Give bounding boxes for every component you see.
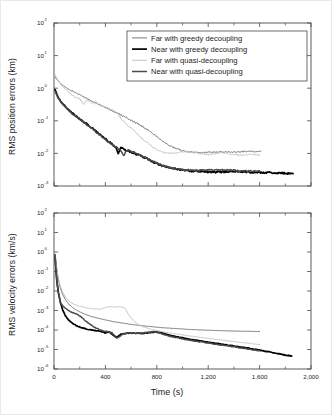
svg-text:10: 10 xyxy=(37,52,44,59)
position-errors-panel: RMS position errors (km) 10-310-210-1100… xyxy=(1,1,332,206)
axes-frame xyxy=(54,213,311,369)
svg-text:10: 10 xyxy=(37,268,44,275)
time-x-axis-label: Time (s) xyxy=(1,387,332,397)
series-line xyxy=(55,254,260,331)
svg-text:10: 10 xyxy=(37,248,44,255)
svg-text:10: 10 xyxy=(37,182,44,189)
y-tick-label: 101 xyxy=(37,50,47,59)
series-line xyxy=(55,255,292,356)
position-errors-plot: 10-310-210-1100101102Far with greedy dec… xyxy=(1,1,332,206)
y-tick-label: 10-6 xyxy=(37,363,49,372)
chart-legend: Far with greedy decouplingNear with gree… xyxy=(127,31,307,81)
y-tick-label: 10-2 xyxy=(37,148,49,157)
x-tick-label: 400 xyxy=(100,373,111,380)
series-line xyxy=(55,77,261,153)
y-tick-label: 10-4 xyxy=(37,324,49,333)
y-tick-label: 10-1 xyxy=(37,266,49,275)
legend-label: Near with greedy decoupling xyxy=(151,45,247,54)
svg-text:-1: -1 xyxy=(45,115,49,120)
x-tick-label: 800 xyxy=(152,373,163,380)
velocity-errors-plot: 10-610-510-410-310-210-11001011020400800… xyxy=(1,201,332,387)
svg-text:10: 10 xyxy=(37,117,44,124)
y-tick-label: 102 xyxy=(37,17,47,26)
svg-text:10: 10 xyxy=(37,346,44,353)
svg-text:-3: -3 xyxy=(45,305,49,310)
svg-text:1: 1 xyxy=(45,50,48,55)
series-line xyxy=(55,75,260,156)
svg-text:10: 10 xyxy=(37,209,44,216)
svg-text:-3: -3 xyxy=(45,180,49,185)
svg-text:-4: -4 xyxy=(45,324,49,329)
svg-text:-2: -2 xyxy=(45,148,49,153)
position-errors-y-axis-label: RMS position errors (km) xyxy=(7,27,17,187)
legend-label: Far with quasi-decoupling xyxy=(151,56,238,65)
figure-container: RMS position errors (km) 10-310-210-1100… xyxy=(0,0,332,415)
svg-text:10: 10 xyxy=(37,19,44,26)
series-group xyxy=(55,75,293,175)
svg-text:-5: -5 xyxy=(45,344,49,349)
svg-text:10: 10 xyxy=(37,229,44,236)
legend-label: Near with quasi-decoupling xyxy=(151,67,243,76)
series-line xyxy=(55,91,260,171)
svg-text:0: 0 xyxy=(45,246,48,251)
svg-text:1: 1 xyxy=(45,227,48,232)
series-group xyxy=(55,254,292,356)
y-tick-label: 100 xyxy=(37,83,47,92)
y-tick-label: 100 xyxy=(37,246,47,255)
svg-text:10: 10 xyxy=(37,326,44,333)
velocity-errors-y-axis-label: RMS velocity errors (km/s) xyxy=(7,205,17,365)
y-tick-label: 10-3 xyxy=(37,305,49,314)
svg-text:10: 10 xyxy=(37,365,44,372)
svg-text:-1: -1 xyxy=(45,266,49,271)
svg-text:-6: -6 xyxy=(45,363,49,368)
x-tick-label: 1,600 xyxy=(252,373,268,380)
x-tick-label: 1,200 xyxy=(200,373,216,380)
svg-text:10: 10 xyxy=(37,150,44,157)
y-tick-label: 101 xyxy=(37,227,47,236)
velocity-errors-panel: RMS velocity errors (km/s) 10-610-510-41… xyxy=(1,201,332,415)
svg-text:-2: -2 xyxy=(45,285,49,290)
svg-text:10: 10 xyxy=(37,307,44,314)
series-line xyxy=(55,255,260,351)
x-tick-label: 0 xyxy=(52,373,56,380)
svg-text:10: 10 xyxy=(37,287,44,294)
legend-label: Far with greedy decoupling xyxy=(151,34,242,43)
svg-text:0: 0 xyxy=(45,83,48,88)
x-tick-label: 2,000 xyxy=(303,373,319,380)
y-tick-label: 10-2 xyxy=(37,285,49,294)
y-tick-label: 10-1 xyxy=(37,115,49,124)
y-tick-label: 102 xyxy=(37,207,47,216)
svg-text:10: 10 xyxy=(37,85,44,92)
svg-text:2: 2 xyxy=(45,207,48,212)
svg-text:2: 2 xyxy=(45,17,48,22)
y-tick-label: 10-3 xyxy=(37,180,49,189)
y-tick-label: 10-5 xyxy=(37,344,49,353)
